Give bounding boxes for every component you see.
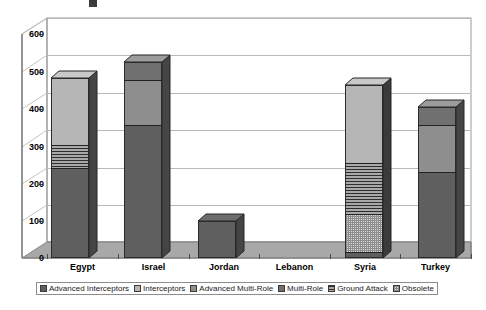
legend-swatch-advanced-multi-role bbox=[190, 285, 197, 292]
bar-israel-seg-advanced-interceptors bbox=[124, 125, 162, 258]
legend-label-advanced-multi-role: Advanced Multi-Role bbox=[199, 284, 273, 293]
x-tick-mark-4 bbox=[330, 254, 331, 259]
x-axis: Egypt Israel Jordan Lebanon Syria Turkey bbox=[0, 262, 486, 276]
legend-label-obsolete: Obsolete bbox=[402, 284, 434, 293]
x-tick-label-egypt: Egypt bbox=[47, 262, 118, 272]
legend-item-interceptors[interactable]: Interceptors bbox=[134, 284, 185, 293]
legend-item-advanced-interceptors[interactable]: Advanced Interceptors bbox=[40, 284, 129, 293]
x-tick-mark-5 bbox=[400, 254, 401, 259]
x-tick-mark-2 bbox=[189, 254, 190, 259]
y-tick-mark-400 bbox=[39, 109, 43, 110]
gridline-100 bbox=[48, 205, 470, 206]
legend-item-obsolete[interactable]: Obsolete bbox=[393, 284, 434, 293]
legend-item-ground-attack[interactable]: Ground Attack bbox=[328, 284, 388, 293]
bar-israel-seg-advanced-multi-role bbox=[124, 80, 162, 125]
bar-syria-divider-3 bbox=[345, 252, 383, 253]
x-tick-mark-0 bbox=[47, 254, 48, 259]
bar-syria-seg-obsolete bbox=[345, 214, 383, 252]
x-tick-mark-3 bbox=[259, 254, 260, 259]
bar-syria-seg-interceptors bbox=[345, 85, 383, 163]
plot-area: 600 500 400 300 200 100 0 bbox=[0, 0, 486, 278]
y-axis: 600 500 400 300 200 100 0 bbox=[0, 0, 44, 278]
legend-swatch-obsolete bbox=[393, 285, 400, 292]
x-tick-label-turkey: Turkey bbox=[400, 262, 471, 272]
bar-jordan[interactable] bbox=[198, 0, 236, 258]
bar-turkey[interactable] bbox=[418, 0, 456, 258]
bar-syria-divider-1 bbox=[345, 163, 383, 164]
legend-label-ground-attack: Ground Attack bbox=[337, 284, 388, 293]
bar-jordan-top bbox=[198, 0, 248, 258]
gridline-300 bbox=[48, 130, 470, 131]
y-tick-mark-200 bbox=[39, 184, 43, 185]
bar-syria-divider-2 bbox=[345, 214, 383, 215]
chart-legend: Advanced Interceptors Interceptors Advan… bbox=[36, 282, 438, 295]
gridline-400 bbox=[48, 93, 470, 94]
legend-swatch-advanced-interceptors bbox=[40, 285, 47, 292]
bar-turkey-seg-advanced-multi-role bbox=[418, 125, 456, 172]
bar-syria-seg-ground-attack bbox=[345, 163, 383, 214]
bar-egypt-seg-ground-attack bbox=[51, 145, 89, 168]
y-tick-mark-600 bbox=[39, 34, 43, 35]
bar-egypt-divider-2 bbox=[51, 168, 89, 169]
bar-syria[interactable] bbox=[345, 0, 383, 258]
x-tick-label-syria: Syria bbox=[330, 262, 400, 272]
legend-swatch-interceptors bbox=[134, 285, 141, 292]
bar-israel-seg-multi-role bbox=[124, 62, 162, 80]
legend-swatch-ground-attack bbox=[328, 285, 335, 292]
gridline-600 bbox=[48, 18, 470, 19]
x-tick-label-jordan: Jordan bbox=[189, 262, 259, 272]
bar-turkey-divider-1 bbox=[418, 125, 456, 126]
legend-item-multi-role[interactable]: Multi-Role bbox=[278, 284, 323, 293]
legend-label-interceptors: Interceptors bbox=[143, 284, 185, 293]
bar-egypt-seg-interceptors bbox=[51, 78, 89, 145]
bar-egypt[interactable] bbox=[51, 0, 89, 258]
gridline-500 bbox=[48, 55, 470, 56]
bar-egypt-divider-1 bbox=[51, 145, 89, 146]
bar-turkey-seg-advanced-interceptors bbox=[418, 172, 456, 258]
x-tick-mark-1 bbox=[118, 254, 119, 259]
y-tick-mark-0 bbox=[39, 258, 43, 259]
bar-egypt-seg-advanced-interceptors bbox=[51, 168, 89, 258]
bar-israel-divider-2 bbox=[124, 125, 162, 126]
legend-swatch-multi-role bbox=[278, 285, 285, 292]
x-tick-label-israel: Israel bbox=[118, 262, 189, 272]
bar-turkey-divider-2 bbox=[418, 172, 456, 173]
y-tick-mark-100 bbox=[39, 221, 43, 222]
bar-jordan-seg-advanced-interceptors bbox=[198, 221, 236, 258]
bar-israel[interactable] bbox=[124, 0, 162, 258]
bar-turkey-seg-multi-role bbox=[418, 107, 456, 125]
y-tick-mark-300 bbox=[39, 147, 43, 148]
x-tick-mark-6 bbox=[471, 254, 472, 259]
y-tick-mark-500 bbox=[39, 72, 43, 73]
legend-label-multi-role: Multi-Role bbox=[287, 284, 323, 293]
gridline-200 bbox=[48, 168, 470, 169]
chart-container: 600 500 400 300 200 100 0 bbox=[0, 0, 486, 310]
legend-item-advanced-multi-role[interactable]: Advanced Multi-Role bbox=[190, 284, 273, 293]
x-tick-label-lebanon: Lebanon bbox=[259, 262, 330, 272]
bar-israel-divider-1 bbox=[124, 80, 162, 81]
legend-label-advanced-interceptors: Advanced Interceptors bbox=[49, 284, 129, 293]
